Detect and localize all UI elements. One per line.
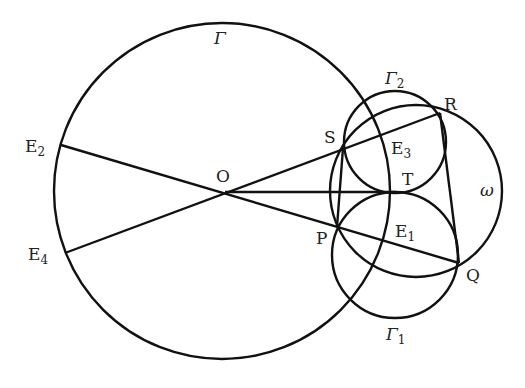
label-point-t: T [402,169,414,189]
label-point-e4: E4 [28,244,48,267]
diagram-canvas: Γ Γ2 Γ1 ω O T S P R Q E1 E2 E3 E4 [0,0,525,388]
label-point-q: Q [466,265,480,285]
segment-e2-q [61,145,459,263]
label-gamma-1: Γ1 [385,324,405,347]
label-omega: ω [480,180,494,200]
segment-s-p [337,148,343,227]
segment-r-q [440,113,459,263]
label-gamma-2: Γ2 [384,68,404,91]
label-point-r: R [444,94,458,114]
label-point-e2: E2 [25,136,45,159]
label-point-e1: E1 [395,221,415,244]
label-point-e3: E3 [391,138,411,161]
label-point-s: S [324,127,336,147]
label-point-o: O [216,166,230,186]
label-gamma: Γ [213,28,227,48]
geometry-diagram: Γ Γ2 Γ1 ω O T S P R Q E1 E2 E3 E4 [0,0,525,388]
label-point-p: P [316,228,327,248]
circle-gamma-1 [332,192,458,318]
